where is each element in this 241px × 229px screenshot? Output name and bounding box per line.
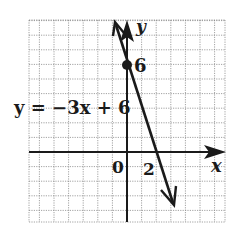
y-intercept-label: 6 — [134, 55, 147, 76]
y-axis-label: y — [135, 16, 147, 36]
y-intercept-point — [122, 60, 132, 70]
coordinate-graph: y 6 y = −3x + 6 0 2 x — [0, 0, 241, 229]
equation-label: y = −3x + 6 — [13, 97, 131, 118]
origin-label: 0 — [112, 157, 124, 177]
x-tick-label: 2 — [143, 159, 155, 179]
x-axis-label: x — [210, 155, 222, 176]
